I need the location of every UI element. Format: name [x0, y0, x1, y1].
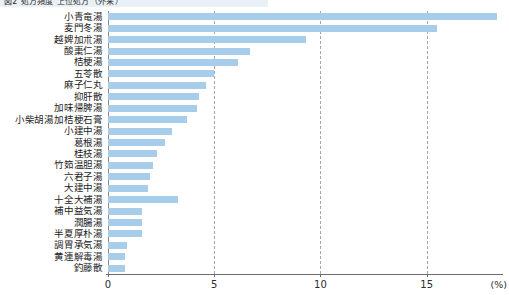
bar [108, 105, 197, 112]
category-label: 半夏厚朴湯 [54, 229, 103, 239]
bar [108, 185, 148, 192]
category-label: 抑肝散 [74, 92, 103, 102]
category-label: 越婢加朮湯 [54, 35, 103, 45]
category-label: 麦門冬湯 [64, 23, 103, 33]
clipped-page-header: 図2 処方頻度 上位処方（外来） [0, 0, 268, 7]
bar [108, 173, 150, 180]
bar [108, 59, 238, 66]
bar [108, 25, 437, 32]
category-label: 大建中湯 [64, 183, 103, 193]
category-label: 加味帰脾湯 [54, 103, 103, 113]
bar [108, 139, 165, 146]
x-tick-label: 10 [314, 279, 327, 290]
x-tick-label: 0 [105, 279, 111, 290]
bar [108, 208, 142, 215]
bar [108, 82, 206, 89]
category-label: 小柴胡湯加桔梗石膏 [15, 115, 103, 125]
category-label: 補中益気湯 [54, 206, 103, 216]
x-axis-unit-label: (%) [491, 279, 507, 290]
clipped-header-text: 図2 処方頻度 上位処方（外来） [4, 0, 123, 6]
bar [108, 196, 178, 203]
category-label: 潤腸湯 [74, 218, 103, 228]
category-label: 十全大補湯 [54, 195, 103, 205]
category-label: 調胃承気湯 [54, 240, 103, 250]
gridline-15 [427, 11, 428, 274]
category-label: 五苓散 [74, 69, 103, 79]
bar [108, 93, 199, 100]
category-label: 釣藤散 [74, 263, 103, 273]
bar [108, 128, 172, 135]
gridline-10 [320, 11, 321, 274]
bar [108, 219, 142, 226]
x-tick-10 [320, 274, 321, 277]
bar [108, 48, 250, 55]
category-label: 桂枝湯 [74, 149, 103, 159]
category-label: 小建中湯 [64, 126, 103, 136]
x-tick-label: 5 [211, 279, 217, 290]
category-label: 桔梗湯 [74, 57, 103, 67]
x-axis-line [106, 274, 503, 275]
category-label: 葛根湯 [74, 138, 103, 148]
bar [108, 162, 153, 169]
x-tick-5 [214, 274, 215, 277]
x-tick-15 [427, 274, 428, 277]
x-tick-0 [108, 274, 109, 277]
bar [108, 230, 142, 237]
bar-chart-figure: 図2 処方頻度 上位処方（外来） 小青竜湯麦門冬湯越婢加朮湯酸棗仁湯桔梗湯五苓散… [0, 0, 509, 295]
plot-area [108, 11, 501, 274]
bar [108, 13, 497, 20]
category-label: 小青竜湯 [64, 12, 103, 22]
category-label: 黄連解毒湯 [54, 252, 103, 262]
category-label: 六君子湯 [64, 172, 103, 182]
category-label: 竹筎温胆湯 [54, 160, 103, 170]
bar [108, 116, 187, 123]
bar [108, 36, 306, 43]
bar [108, 265, 125, 272]
category-label: 麻子仁丸 [64, 80, 103, 90]
bar [108, 253, 125, 260]
bar [108, 70, 214, 77]
bar [108, 242, 127, 249]
category-axis-labels: 小青竜湯麦門冬湯越婢加朮湯酸棗仁湯桔梗湯五苓散麻子仁丸抑肝散加味帰脾湯小柴胡湯加… [0, 11, 105, 274]
category-label: 酸棗仁湯 [64, 46, 103, 56]
bar [108, 150, 157, 157]
x-tick-label: 15 [420, 279, 433, 290]
